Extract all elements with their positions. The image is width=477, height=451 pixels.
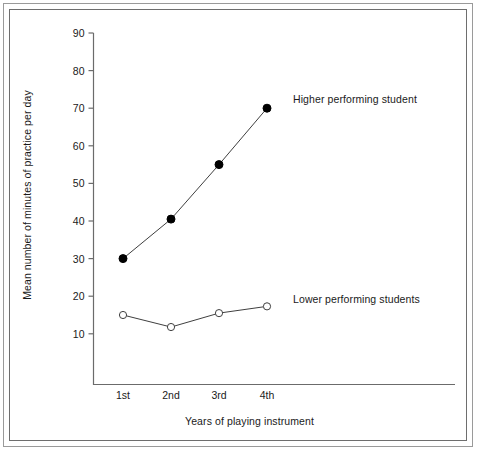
y-tick-label: 30	[51, 254, 85, 264]
data-point-filled	[215, 161, 223, 169]
y-tick-label: 70	[51, 103, 85, 113]
data-point-open	[215, 310, 222, 317]
series-label-lower: Lower performing students	[293, 293, 420, 305]
series-higher-performing	[119, 104, 271, 262]
y-tick-label: 80	[51, 66, 85, 76]
data-point-open	[119, 311, 126, 318]
x-tick-label: 3rd	[195, 389, 243, 401]
y-axis-title-text: Mean number of minutes of practice per d…	[21, 90, 33, 300]
series-line	[123, 306, 267, 327]
series-line	[123, 108, 267, 258]
data-point-open	[263, 303, 270, 310]
x-tick-label: 4th	[243, 389, 291, 401]
x-axis-title-text: Years of playing instrument	[185, 415, 314, 427]
series-lower-performing	[119, 303, 270, 331]
data-point-filled	[119, 255, 127, 263]
y-tick-label: 50	[51, 178, 85, 188]
y-axis-title: Mean number of minutes of practice per d…	[15, 0, 39, 390]
data-point-open	[167, 323, 174, 330]
y-tick-label: 40	[51, 216, 85, 226]
data-point-filled	[263, 104, 271, 112]
y-tick-label: 60	[51, 141, 85, 151]
series-label-higher: Higher performing student	[293, 93, 417, 105]
data-point-filled	[167, 215, 175, 223]
x-tick-label: 1st	[99, 389, 147, 401]
y-axis-ticks	[89, 33, 94, 334]
x-tick-label: 2nd	[147, 389, 195, 401]
chart-page: 908070605040302010 1st2nd3rd4th Mean num…	[0, 0, 477, 451]
y-tick-label: 10	[51, 329, 85, 339]
y-tick-label: 90	[51, 28, 85, 38]
y-tick-label: 20	[51, 291, 85, 301]
x-axis-title: Years of playing instrument	[0, 415, 477, 427]
